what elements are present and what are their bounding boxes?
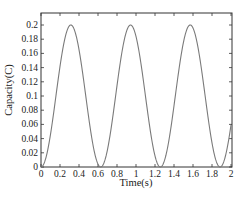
y-tick-label: 0.18 xyxy=(21,34,38,44)
y-axis-label: Capacity(C) xyxy=(3,64,15,116)
y-tick-label: 0.1 xyxy=(26,91,38,101)
y-tick-label: 0.12 xyxy=(21,77,38,87)
y-tick-label: 0.08 xyxy=(21,105,38,115)
x-tick-label: 1.4 xyxy=(168,169,180,179)
x-axis-label: Time(s) xyxy=(120,177,153,189)
y-tick-label: 0.16 xyxy=(21,48,38,58)
capacity-chart: 00.20.40.60.811.21.41.61.82 00.020.040.0… xyxy=(0,0,244,198)
y-tick-label: 0.14 xyxy=(21,63,38,73)
x-tick-label: 1.6 xyxy=(187,169,199,179)
y-axis-ticks xyxy=(41,25,232,167)
capacity-line xyxy=(41,25,231,167)
y-tick-label: 0.02 xyxy=(21,148,38,158)
x-tick-label: 0 xyxy=(39,169,44,179)
plot-frame xyxy=(41,13,232,167)
x-tick-label: 0.4 xyxy=(73,169,85,179)
x-tick-label: 1.8 xyxy=(206,169,218,179)
x-tick-label: 2 xyxy=(229,169,234,179)
x-tick-label: 0.2 xyxy=(54,169,66,179)
x-tick-label: 0.6 xyxy=(92,169,104,179)
y-tick-label: 0.04 xyxy=(21,134,38,144)
y-tick-label: 0.2 xyxy=(26,20,38,30)
y-tick-label: 0 xyxy=(33,162,38,172)
y-tick-label: 0.06 xyxy=(21,119,38,129)
y-axis-tick-labels: 00.020.040.060.080.10.120.140.160.180.2 xyxy=(21,20,38,172)
